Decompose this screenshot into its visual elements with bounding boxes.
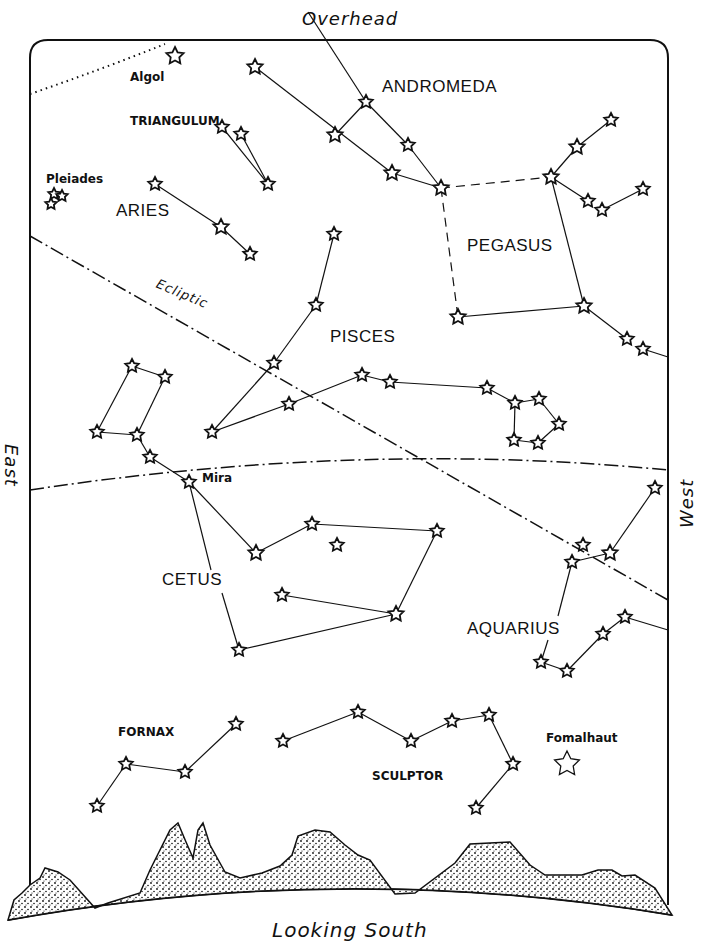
star-icon xyxy=(445,714,458,727)
stars xyxy=(45,47,661,814)
star-icon xyxy=(45,198,56,209)
star-icon xyxy=(384,165,399,180)
constellation-line xyxy=(316,234,334,305)
star-icon xyxy=(182,475,195,488)
constellation-lines xyxy=(97,12,668,808)
constellation-line xyxy=(256,524,312,553)
constellation-cetus: CETUS xyxy=(162,570,222,590)
star-icon xyxy=(355,368,368,381)
star-icon xyxy=(534,655,547,668)
star-label-fomalhaut: Fomalhaut xyxy=(546,731,618,745)
star-icon xyxy=(143,450,156,463)
star-icon xyxy=(480,381,493,394)
star-icon xyxy=(433,180,448,195)
celestial-equator-line xyxy=(30,459,668,490)
star-icon xyxy=(305,517,318,530)
fomalhaut-star-icon xyxy=(555,751,580,775)
star-icon xyxy=(430,524,443,537)
star-label-pleiades: Pleiades xyxy=(46,172,103,186)
star-icon xyxy=(309,298,322,311)
star-icon xyxy=(596,627,609,640)
star-icon xyxy=(532,392,545,405)
constellation-line xyxy=(610,488,655,553)
constellation-line xyxy=(567,634,603,671)
star-icon xyxy=(90,425,103,438)
constellation-line xyxy=(255,67,392,173)
label-west: West xyxy=(676,479,697,528)
constellation-line xyxy=(189,482,256,553)
constellation-line xyxy=(489,715,513,764)
constellation-line xyxy=(584,306,627,339)
star-icon xyxy=(636,342,649,355)
milky-way-boundary xyxy=(30,44,165,94)
constellation-pegasus: PEGASUS xyxy=(467,236,553,256)
constellation-line xyxy=(476,764,513,808)
star-icon xyxy=(119,757,132,770)
constellation-line xyxy=(126,764,185,772)
constellation-andromeda: ANDROMEDA xyxy=(382,77,497,97)
constellation-line xyxy=(558,562,572,616)
constellation-aries: ARIES xyxy=(116,201,170,221)
star-label-algol: Algol xyxy=(130,70,164,84)
star-icon xyxy=(620,332,633,345)
constellation-line xyxy=(283,712,358,741)
constellation-aquarius: AQUARIUS xyxy=(467,619,560,639)
star-icon xyxy=(282,397,295,410)
constellation-sculptor: SCULPTOR xyxy=(372,769,443,783)
label-east: East xyxy=(1,444,22,487)
star-icon xyxy=(327,227,340,240)
star-icon xyxy=(450,309,465,324)
star-icon xyxy=(581,194,594,207)
constellation-line xyxy=(390,382,487,388)
constellation-line xyxy=(366,102,408,145)
constellation-line xyxy=(441,177,551,188)
star-icon xyxy=(234,127,247,140)
constellation-fornax: FORNAX xyxy=(118,725,174,739)
constellation-line xyxy=(551,177,584,306)
star-icon xyxy=(166,47,183,63)
star-icon xyxy=(330,538,343,551)
star-icon xyxy=(90,799,103,812)
constellation-line xyxy=(625,617,668,630)
star-icon xyxy=(508,396,521,409)
constellation-line xyxy=(458,306,584,317)
star-icon xyxy=(531,436,544,449)
constellation-line xyxy=(241,134,268,184)
star-icon xyxy=(351,705,364,718)
star-icon xyxy=(383,375,396,388)
star-icon xyxy=(130,428,143,441)
star-label-mira: Mira xyxy=(202,471,232,485)
star-icon xyxy=(636,182,649,195)
star-chart xyxy=(0,0,702,952)
label-looking-south: Looking South xyxy=(272,918,428,942)
constellation-line xyxy=(312,524,437,531)
label-overhead: Overhead xyxy=(302,8,398,29)
constellation-line xyxy=(189,482,211,570)
constellation-line xyxy=(97,366,132,432)
star-icon xyxy=(565,555,578,568)
star-icon xyxy=(569,139,584,154)
star-icon xyxy=(125,359,138,372)
star-icon xyxy=(595,203,608,216)
star-icon xyxy=(232,643,245,656)
star-icon xyxy=(276,734,289,747)
star-icon xyxy=(148,177,161,190)
constellation-line xyxy=(212,363,274,432)
constellation-line xyxy=(358,712,411,741)
constellation-line xyxy=(239,614,396,650)
constellation-line xyxy=(282,595,396,614)
constellation-line xyxy=(396,531,437,614)
star-icon xyxy=(482,708,495,721)
constellation-line xyxy=(137,377,165,435)
star-icon xyxy=(158,370,171,383)
star-icon xyxy=(648,481,661,494)
constellation-line xyxy=(185,724,236,772)
star-icon xyxy=(267,356,280,369)
star-icon xyxy=(404,734,417,747)
constellation-line xyxy=(441,188,458,317)
star-icon xyxy=(275,588,288,601)
star-icon xyxy=(602,545,617,560)
constellation-line xyxy=(577,120,611,147)
constellation-line xyxy=(222,593,239,650)
ecliptic-line xyxy=(30,236,668,600)
